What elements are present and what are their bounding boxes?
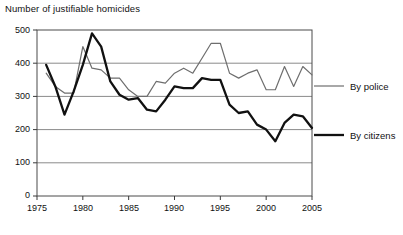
legend-swatches [314, 86, 344, 135]
chart-container: Number of justifiable homicides 500 400 … [0, 0, 403, 235]
series-line-by-citizens [46, 33, 312, 141]
legend-label-by-citizens: By citizens [350, 130, 395, 141]
series-lines [46, 33, 312, 141]
legend-label-by-police: By police [350, 81, 389, 92]
x-axis-ticks [37, 196, 312, 200]
y-axis-ticks [33, 30, 37, 196]
plot-frame [37, 30, 312, 196]
plot-area [0, 0, 403, 235]
